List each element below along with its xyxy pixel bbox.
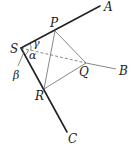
label-S: S [10, 42, 18, 56]
label-B: B [118, 64, 128, 78]
beta-leader [18, 52, 24, 66]
label-beta: β [12, 69, 19, 82]
label-P: P [49, 16, 59, 30]
segment-PR [44, 31, 55, 89]
label-A: A [103, 0, 113, 14]
label-R: R [34, 89, 44, 103]
label-C: C [68, 132, 77, 146]
segment-PQ [55, 31, 86, 63]
angle-arc-alpha [25, 50, 29, 55]
ray-QB [86, 63, 116, 69]
label-alpha: α [29, 49, 37, 62]
label-Q: Q [79, 65, 89, 79]
geometry-figure: A P S γ α β Q B R C [0, 0, 132, 150]
